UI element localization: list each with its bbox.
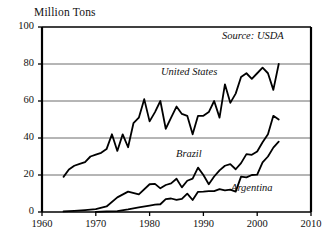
plot-frame [42,27,311,212]
soybean-production-chart: Million Tons Source: USDA United States … [0,0,330,249]
axis-ticks [38,27,311,216]
plot-area [0,0,330,249]
